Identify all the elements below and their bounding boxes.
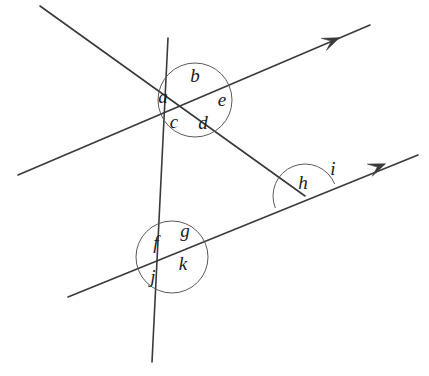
angle-label-h: h: [298, 172, 308, 193]
angle-label-b: b: [190, 65, 200, 86]
lines-group: [18, 6, 418, 362]
angle-label-g: g: [180, 220, 190, 241]
angle-label-d: d: [198, 112, 208, 133]
descending-transversal: [40, 6, 305, 196]
angle-label-f: f: [153, 232, 161, 253]
lower-angle-circle: [136, 221, 208, 293]
angle-label-e: e: [218, 89, 226, 110]
angle-label-c: c: [170, 111, 179, 132]
upper-parallel-ray: [18, 25, 370, 175]
arrowheads-group: [321, 38, 385, 177]
angle-label-a: a: [158, 86, 168, 107]
geometry-canvas: abcdefgjkhi: [0, 0, 429, 376]
angle-diagram: abcdefgjkhi: [0, 0, 429, 376]
angle-label-k: k: [179, 253, 188, 274]
lower-parallel-ray: [68, 155, 418, 297]
angle-label-i: i: [330, 158, 335, 179]
